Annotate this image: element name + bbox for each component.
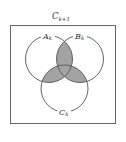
universe-label: Ck+1 (52, 11, 70, 22)
venn-diagram: Ck+1 Ak Bk Ck (0, 0, 126, 142)
venn-svg: Ck+1 Ak Bk Ck (0, 0, 126, 142)
